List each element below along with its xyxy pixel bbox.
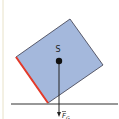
arrow-head-icon	[57, 112, 61, 117]
force-label: FG	[62, 112, 70, 119]
center-label: S	[56, 45, 61, 54]
tipping-block-diagram: S FG	[0, 0, 119, 119]
center-of-mass-dot	[56, 58, 62, 64]
